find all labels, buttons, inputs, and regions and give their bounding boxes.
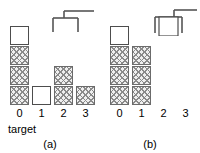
block bbox=[10, 46, 29, 65]
block bbox=[54, 86, 73, 105]
block bbox=[76, 86, 95, 105]
block bbox=[110, 66, 129, 85]
axis-tick-3: 3 bbox=[76, 106, 95, 120]
block bbox=[10, 26, 29, 45]
axis-tick-2: 2 bbox=[154, 106, 173, 120]
axis-tick-2: 2 bbox=[54, 106, 73, 120]
block-field-b bbox=[110, 25, 196, 105]
block-field-a bbox=[10, 25, 96, 105]
axis-tick-0: 0 bbox=[110, 106, 129, 120]
stack-column-3 bbox=[76, 85, 95, 105]
axis-tick-0: 0 bbox=[10, 106, 29, 120]
axis-tick-1: 1 bbox=[132, 106, 151, 120]
block bbox=[110, 26, 129, 45]
block bbox=[110, 86, 129, 105]
block bbox=[54, 66, 73, 85]
target-label: target bbox=[8, 123, 36, 136]
block bbox=[10, 86, 29, 105]
stack-column-2 bbox=[54, 65, 73, 105]
block bbox=[132, 86, 151, 105]
block bbox=[132, 66, 151, 85]
panel-b: 0 1 2 3 (b) bbox=[100, 0, 200, 153]
axis-labels-a: 0 1 2 3 bbox=[10, 106, 96, 120]
stack-column-0 bbox=[10, 25, 29, 105]
panel-caption-b: (b) bbox=[100, 138, 200, 151]
stack-column-0 bbox=[110, 25, 129, 105]
axis-tick-1: 1 bbox=[32, 106, 51, 120]
block bbox=[110, 46, 129, 65]
axis-labels-b: 0 1 2 3 bbox=[110, 106, 196, 120]
axis-tick-3: 3 bbox=[176, 106, 195, 120]
stack-column-1 bbox=[132, 45, 151, 105]
stack-column-1 bbox=[32, 85, 51, 105]
panel-a: 0 1 2 3 target (a) bbox=[0, 0, 100, 153]
block bbox=[132, 46, 151, 65]
block bbox=[10, 66, 29, 85]
block bbox=[32, 86, 51, 105]
panel-caption-a: (a) bbox=[0, 138, 100, 151]
